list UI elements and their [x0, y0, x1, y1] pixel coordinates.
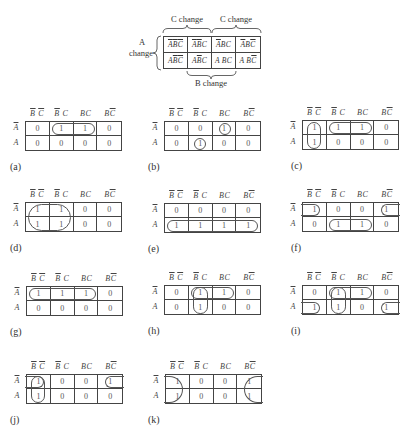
column-header: B C	[50, 274, 74, 283]
row-header: A	[11, 138, 21, 147]
kmap-cell: 1	[50, 122, 74, 136]
kmap-cell: 1	[237, 375, 261, 389]
kmap-cell: 0	[97, 203, 121, 217]
kmap-cell: 1	[237, 389, 261, 403]
kmap-cell: 0	[213, 300, 237, 314]
kmap-cell: 0	[75, 375, 99, 389]
row-header: A	[288, 302, 298, 311]
kmap-cell: 0	[98, 301, 122, 315]
kmap-cell: 1	[327, 286, 351, 300]
kmap-cell: 1	[351, 121, 375, 135]
kmap-cell: 0	[303, 217, 327, 231]
a-change-label-a: A	[132, 37, 152, 47]
figure-label-i: (i)	[291, 325, 300, 336]
column-header: BC	[237, 191, 261, 200]
kmap-cell: 1	[166, 389, 190, 403]
reference-cell: A B C	[164, 37, 188, 53]
figure-label-k: (k)	[148, 414, 160, 425]
figure-label-a: (a)	[10, 161, 21, 172]
column-header: BC	[351, 108, 375, 117]
kmap-grid: 01101101	[302, 285, 399, 315]
kmap-cell: 1	[327, 121, 351, 135]
kmap-cell: 0	[75, 301, 99, 315]
column-header: BC	[375, 273, 399, 282]
reference-kmap-grid: A B CA B CA BCA BCA B CA B CA BCA BC	[163, 36, 261, 69]
kmap-j: B CB CBCBCAA10011000	[26, 374, 123, 404]
row-header: A	[288, 219, 298, 228]
kmap-cell: 0	[351, 135, 375, 149]
kmap-cell: 1	[327, 217, 351, 231]
kmap-cell: 0	[327, 203, 351, 217]
kmap-cell: 1	[27, 287, 51, 301]
kmap-cell: 0	[189, 122, 213, 136]
column-header: B C	[164, 273, 188, 282]
figure-label-c: (c)	[291, 160, 302, 171]
kmap-grid: 01100100	[164, 285, 261, 315]
column-header: BC	[375, 190, 399, 199]
kmap-cell: 1	[189, 136, 213, 150]
kmap-cell: 1	[327, 300, 351, 314]
row-header: A	[151, 376, 161, 385]
kmap-a: B CB CBCBCAA01100000	[25, 121, 122, 151]
kmap-cell: 0	[236, 136, 260, 150]
b-change-label: B change	[191, 78, 231, 88]
reference-cell: A B C	[164, 53, 188, 69]
row-header: A	[11, 123, 21, 132]
row-header: A	[12, 303, 22, 312]
kmap-cell: 1	[27, 389, 51, 403]
kmap-b: B CB CBCBCAA00100100	[164, 121, 261, 151]
kmap-cell: 1	[189, 286, 213, 300]
kmap-cell: 0	[236, 204, 260, 218]
kmap-cell: 0	[213, 204, 237, 218]
kmap-cell: 0	[165, 136, 189, 150]
kmap-cell: 0	[97, 122, 121, 136]
reference-cell: A B C	[188, 53, 212, 69]
kmap-cell: 1	[213, 286, 237, 300]
kmap-cell: 0	[51, 301, 75, 315]
row-header: A	[288, 122, 298, 131]
kmap-cell: 0	[214, 389, 238, 403]
column-header: BC	[213, 273, 237, 282]
kmap-grid: 10011001	[165, 374, 262, 404]
row-header: A	[12, 288, 22, 297]
kmap-k: B CB CBCBCAA10011001	[165, 374, 262, 404]
column-header: B C	[25, 109, 49, 118]
figure-label-f: (f)	[291, 242, 301, 253]
column-header: B C	[50, 362, 74, 371]
column-header: B C	[49, 190, 73, 199]
row-header: A	[288, 287, 298, 296]
kmap-cell: 1	[303, 300, 327, 314]
kmap-cell: 0	[236, 300, 260, 314]
kmap-cell: 1	[50, 217, 74, 231]
kmap-cell: 0	[27, 301, 51, 315]
figure-label-h: (h)	[148, 325, 160, 336]
column-header: B C	[189, 362, 213, 371]
kmap-cell: 0	[190, 375, 214, 389]
kmap-cell: 0	[214, 375, 238, 389]
kmap-cell: 0	[351, 203, 375, 217]
row-header: A	[150, 123, 160, 132]
kmap-cell: 1	[27, 375, 51, 389]
kmap-cell: 0	[98, 287, 122, 301]
kmap-cell: 1	[351, 217, 375, 231]
row-header: A	[150, 138, 160, 147]
kmap-cell: 0	[190, 389, 214, 403]
kmap-grid: 00001111	[164, 203, 261, 233]
kmap-c: B CB CBCBCAA11101000	[302, 120, 399, 150]
kmap-d: B CB CBCBCAA11001100	[25, 202, 122, 232]
row-header: A	[12, 391, 22, 400]
row-header: A	[150, 302, 160, 311]
column-header: B C	[26, 362, 50, 371]
column-header: BC	[213, 191, 237, 200]
kmap-cell: 0	[74, 217, 98, 231]
kmap-cell: 1	[189, 300, 213, 314]
column-header: BC	[351, 273, 375, 282]
kmap-cell: 1	[165, 218, 189, 232]
a-change-label-change: change	[126, 48, 156, 58]
column-header: BC	[214, 362, 238, 371]
kmap-cell: 0	[165, 204, 189, 218]
kmap-cell: 0	[26, 136, 50, 150]
kmap-cell: 1	[75, 287, 99, 301]
column-header: B C	[49, 109, 73, 118]
row-header: A	[288, 137, 298, 146]
